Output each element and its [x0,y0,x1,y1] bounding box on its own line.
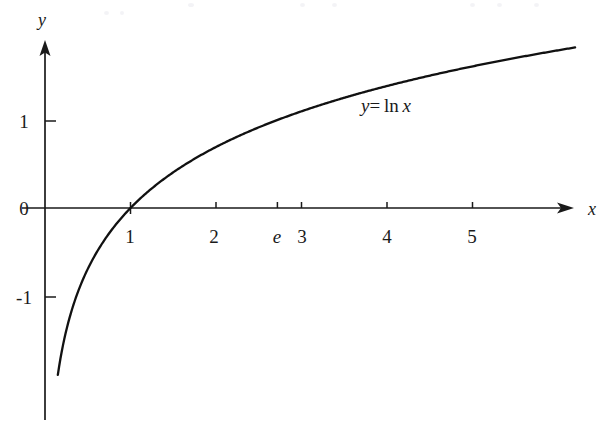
x-axis-group: x [22,199,596,219]
y-axis-label: y [36,10,46,30]
y-axis-group: y [36,10,51,420]
x-tick-label-2: 2 [209,226,219,247]
x-tick-labels: 1 2 e 3 4 5 [125,226,477,247]
curve-equation-label: y= ln x [359,95,412,116]
x-tick-label-4: 4 [382,226,392,247]
x-tick-label-e: e [273,226,281,247]
figure-canvas: y x 1 0 -1 1 2 [0,0,612,436]
y-tick-label-0: 0 [19,198,29,219]
ln-function-graph: y x 1 0 -1 1 2 [0,0,612,436]
y-tick-marks [45,121,56,297]
x-tick-label-3: 3 [297,226,307,247]
y-tick-labels: 1 0 -1 [16,111,32,308]
y-tick-label-neg1: -1 [16,287,32,308]
x-tick-label-5: 5 [467,226,477,247]
x-axis-label: x [587,199,596,219]
ln-curve-path [58,47,575,375]
y-tick-label-1: 1 [19,111,29,132]
x-tick-label-1: 1 [125,226,135,247]
